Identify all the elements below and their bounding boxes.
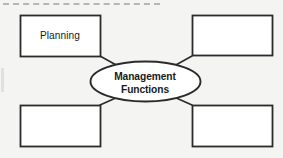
node-box-bottom-left[interactable]	[21, 106, 101, 147]
center-ellipse-label: Management Functions	[94, 70, 196, 95]
node-label-top-left: Planning	[23, 29, 97, 41]
center-label-line-2: Functions	[94, 83, 196, 96]
node-box-bottom-right[interactable]	[193, 106, 273, 147]
center-label-line-1: Management	[94, 70, 196, 83]
node-box-top-right[interactable]	[193, 16, 273, 56]
concept-map-page: Planning Management Functions	[0, 0, 283, 158]
